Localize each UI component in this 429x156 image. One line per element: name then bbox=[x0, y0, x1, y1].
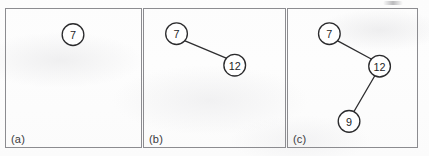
graph-node[interactable]: 9 bbox=[338, 111, 360, 133]
panel-c-graph: 7 12 9 bbox=[288, 9, 417, 147]
panel-label-c: (c) bbox=[293, 133, 306, 145]
panel-b-graph: 7 12 bbox=[144, 9, 285, 147]
panel-c: 7 12 9 (c) bbox=[287, 8, 418, 148]
panel-c-edges bbox=[337, 41, 374, 112]
node-label: 7 bbox=[70, 29, 76, 41]
panel-label-b: (b) bbox=[149, 133, 163, 145]
graph-node[interactable]: 7 bbox=[62, 24, 84, 46]
panel-b-edges bbox=[184, 41, 226, 59]
node-label: 12 bbox=[229, 60, 241, 72]
graph-node[interactable]: 7 bbox=[319, 23, 341, 45]
panel-label-a: (a) bbox=[11, 133, 25, 145]
panel-c-nodes: 7 12 9 bbox=[319, 23, 391, 132]
node-label: 9 bbox=[346, 116, 352, 128]
graph-node[interactable]: 12 bbox=[369, 55, 391, 77]
graph-edge-7-12 bbox=[184, 41, 226, 59]
node-label: 12 bbox=[374, 61, 386, 73]
graph-node[interactable]: 12 bbox=[224, 54, 246, 76]
graph-edge-7-12 bbox=[337, 41, 371, 60]
panel-a-nodes: 7 bbox=[62, 24, 84, 46]
panel-a: 7 (a) bbox=[5, 8, 142, 148]
panel-b: 7 12 (b) bbox=[143, 8, 286, 148]
graph-edge-12-9 bbox=[354, 76, 375, 111]
node-label: 7 bbox=[326, 28, 332, 40]
panel-a-graph: 7 bbox=[6, 9, 141, 147]
scan-smudge-artifact bbox=[383, 1, 403, 5]
node-label: 7 bbox=[174, 28, 180, 40]
figure-container: 7 (a) 7 12 (b) bbox=[0, 0, 429, 156]
graph-node[interactable]: 7 bbox=[166, 23, 188, 45]
